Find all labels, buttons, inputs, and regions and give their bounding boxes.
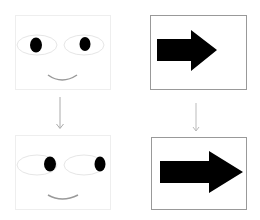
face-icon-top (17, 35, 104, 80)
face-icon-bottom (17, 155, 106, 199)
right-arrow-icon (160, 151, 243, 193)
mouth (48, 75, 77, 80)
mouth (48, 195, 78, 199)
down-arrow-icon (193, 103, 199, 131)
down-arrow-icon (57, 97, 64, 129)
diagram-graphics (0, 0, 260, 220)
right-arrow-icon (157, 30, 217, 71)
right-pupil (95, 157, 106, 172)
left-pupil (44, 157, 56, 172)
left-pupil (30, 38, 42, 53)
right-pupil (80, 37, 91, 51)
